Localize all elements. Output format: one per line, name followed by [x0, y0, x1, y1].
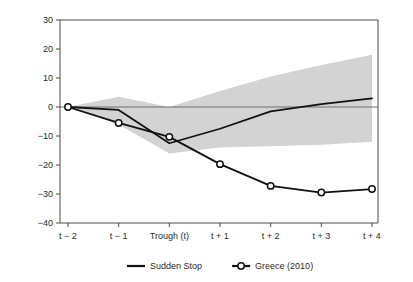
- data-point-marker[interactable]: [217, 161, 223, 167]
- chart-legend: Sudden StopGreece (2010): [127, 261, 313, 271]
- data-point-marker[interactable]: [267, 183, 273, 189]
- y-tick-label: −40: [38, 218, 53, 228]
- y-axis: 3020100−10−20−30−40: [38, 15, 60, 228]
- legend-item-2[interactable]: Greece (2010): [232, 261, 313, 271]
- x-tick-label: t + 2: [262, 231, 280, 241]
- data-point-marker[interactable]: [369, 186, 375, 192]
- legend-item-1[interactable]: Sudden Stop: [127, 261, 202, 271]
- x-tick-label: t + 4: [363, 231, 381, 241]
- line-chart: 3020100−10−20−30−40 t − 2t − 1Trough (t)…: [0, 0, 413, 282]
- data-point-marker[interactable]: [318, 189, 324, 195]
- x-tick-label: t + 1: [211, 231, 229, 241]
- y-tick-label: 0: [48, 102, 53, 112]
- y-tick-label: −10: [38, 131, 53, 141]
- legend-label: Greece (2010): [255, 261, 313, 271]
- y-tick-label: 30: [43, 15, 53, 25]
- legend-swatch-marker: [238, 263, 244, 269]
- chart-figure: 3020100−10−20−30−40 t − 2t − 1Trough (t)…: [0, 0, 413, 282]
- y-tick-label: −30: [38, 189, 53, 199]
- data-point-marker[interactable]: [166, 134, 172, 140]
- x-tick-label: Trough (t): [150, 231, 189, 241]
- x-axis: t − 2t − 1Trough (t)t + 1t + 2t + 3t + 4: [59, 223, 381, 241]
- y-tick-label: 20: [43, 44, 53, 54]
- data-point-marker[interactable]: [115, 120, 121, 126]
- data-point-marker[interactable]: [65, 104, 71, 110]
- y-tick-label: 10: [43, 73, 53, 83]
- x-tick-label: t − 2: [59, 231, 77, 241]
- x-tick-label: t − 1: [110, 231, 128, 241]
- legend-label: Sudden Stop: [150, 261, 202, 271]
- x-tick-label: t + 3: [312, 231, 330, 241]
- y-tick-label: −20: [38, 160, 53, 170]
